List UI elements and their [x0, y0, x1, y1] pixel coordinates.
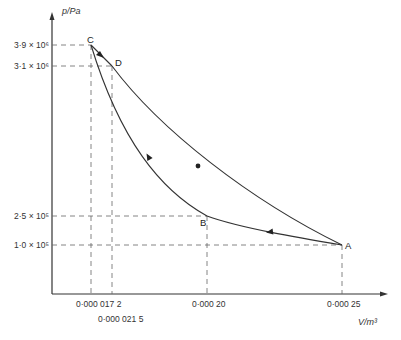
y-axis-label: p/Pa — [62, 7, 81, 16]
y-tick-3-9e6: 3·9 × 10⁶ — [14, 41, 49, 50]
arrow-c-d-icon — [96, 51, 104, 58]
x-tick-0-00020: 0·000 20 — [192, 300, 226, 309]
guide-lines — [52, 45, 342, 294]
x-tick-0-00025: 0·000 25 — [327, 300, 361, 309]
point-b-label: B — [200, 218, 206, 228]
y-axis-arrow-icon — [50, 12, 55, 20]
arrow-a-b-icon — [266, 229, 274, 236]
arrow-d-a-dot-icon — [196, 164, 201, 169]
x-tick-0-0000215: 0·000 021 5 — [98, 315, 143, 324]
cycle-curves — [91, 45, 342, 245]
point-c-label: C — [87, 35, 94, 45]
curve-a-b — [207, 216, 342, 245]
y-tick-2-5e5: 2·5 × 10⁵ — [14, 212, 49, 221]
point-d-label: D — [115, 58, 122, 68]
y-tick-1-0e5: 1·0 × 10⁵ — [14, 241, 49, 250]
point-a-label: A — [345, 241, 351, 251]
curve-d-a — [112, 66, 342, 245]
curve-b-c — [91, 45, 207, 216]
x-tick-0-0000172: 0·000 017 2 — [76, 300, 121, 309]
y-tick-3-1e6: 3·1 × 10⁶ — [14, 62, 49, 71]
pv-diagram — [0, 0, 401, 340]
x-axis-label: V/m³ — [358, 318, 377, 327]
x-axis-arrow-icon — [380, 292, 388, 297]
